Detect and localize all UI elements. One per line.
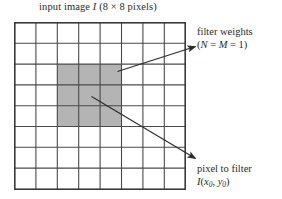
- pixel-to-filter-label: pixel to filter: [197, 163, 252, 174]
- callout-filter-weights: filter weights (N = M = 1): [197, 26, 253, 51]
- filter-weights-formula: (N = M = 1): [197, 39, 253, 52]
- formula-equals-1: =: [208, 39, 219, 50]
- figure-canvas: input image I (8 × 8 pixels): [0, 0, 282, 199]
- pixel-to-filter-formula: I(x0, y0): [197, 176, 252, 191]
- figure-title-prefix: input image: [39, 1, 93, 12]
- formula-equals-2: = 1): [227, 39, 247, 50]
- input-image-grid: [14, 22, 186, 190]
- grid-svg: [14, 22, 186, 190]
- formula-close-paren: ): [226, 176, 230, 187]
- figure-title: input image I (8 × 8 pixels): [0, 1, 196, 12]
- filter-weights-label: filter weights: [197, 26, 253, 37]
- figure-title-suffix: (8 × 8 pixels): [96, 1, 157, 12]
- callout-pixel-to-filter: pixel to filter I(x0, y0): [197, 163, 252, 191]
- formula-n-symbol: N: [201, 39, 208, 50]
- filter-highlight-region: [57, 64, 122, 127]
